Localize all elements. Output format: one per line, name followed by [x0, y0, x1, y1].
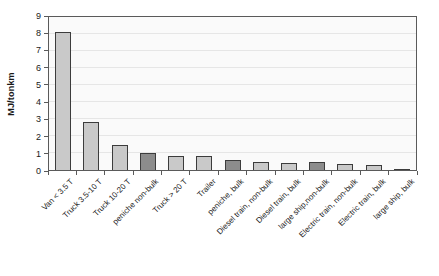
x-tick-mark: [161, 171, 162, 175]
y-axis: 0123456789: [0, 16, 48, 171]
bar-large-ship-bulk: [394, 169, 410, 170]
x-tick-mark: [360, 171, 361, 175]
x-axis-labels: Van < 3.5 TTruck 3.5-10 TTruck 10-20 Tpe…: [48, 171, 417, 276]
plot-area: [48, 16, 417, 171]
x-tick-mark: [218, 171, 219, 175]
y-tick-label: 6: [36, 63, 41, 72]
x-tick-mark: [104, 171, 105, 175]
y-tick-label: 4: [36, 98, 41, 107]
y-gridline: [49, 101, 416, 102]
y-gridline: [49, 84, 416, 85]
x-tick-mark: [275, 171, 276, 175]
bar-peniche-non-bulk: [140, 153, 156, 170]
x-tick-mark: [246, 171, 247, 175]
bar-electric-train-bulk: [366, 165, 382, 170]
x-tick-mark: [48, 171, 49, 175]
y-gridline: [49, 33, 416, 34]
bar-truck-20-t: [168, 156, 184, 170]
bar-diesel-train-bulk: [281, 163, 297, 170]
bar-truck-10-20-t: [112, 145, 128, 171]
y-gridline: [49, 67, 416, 68]
y-tick-label: 2: [36, 132, 41, 141]
bar-large-ship-non-bulk: [309, 162, 325, 170]
bar-diesel-train-non-bulk: [253, 162, 269, 170]
energy-intensity-bar-chart: MJ/tonkm 0123456789 Van < 3.5 TTruck 3.5…: [0, 0, 439, 276]
bar-van-3-5-t: [55, 32, 71, 170]
bar-peniche-bulk: [225, 160, 241, 170]
y-gridline: [49, 118, 416, 119]
y-tick-label: 8: [36, 29, 41, 38]
y-tick-label: 1: [36, 149, 41, 158]
x-tick-mark: [133, 171, 134, 175]
y-tick-label: 0: [36, 167, 41, 176]
y-tick-label: 3: [36, 115, 41, 124]
x-tick-mark: [303, 171, 304, 175]
y-gridline: [49, 50, 416, 51]
bar-trailer: [196, 156, 212, 170]
x-tick-mark: [76, 171, 77, 175]
y-tick-label: 5: [36, 80, 41, 89]
y-tick-label: 9: [36, 12, 41, 21]
x-tick-mark: [417, 171, 418, 175]
x-tick-mark: [388, 171, 389, 175]
x-category-label: Trailer: [195, 177, 217, 199]
bar-electric-train-non-bulk: [337, 164, 353, 170]
y-gridline: [49, 135, 416, 136]
y-tick-label: 7: [36, 46, 41, 55]
x-tick-mark: [189, 171, 190, 175]
y-gridline: [49, 152, 416, 153]
x-tick-mark: [331, 171, 332, 175]
bar-truck-3-5-10-t: [83, 122, 99, 170]
x-category-label: large ship,non-bulk: [277, 177, 331, 231]
